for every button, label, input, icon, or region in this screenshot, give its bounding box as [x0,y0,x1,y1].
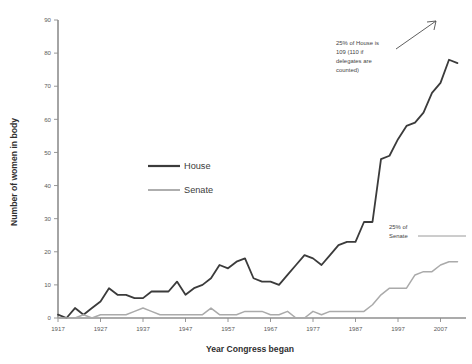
annotation-house-line-2: 109 (110 if [336,49,364,55]
x-tick-label: 1947 [179,325,193,332]
chart-legend: House Senate [148,161,213,195]
y-tick-label: 70 [44,82,51,89]
y-tick-label: 30 [44,215,51,222]
y-tick-label: 20 [44,248,51,255]
x-tick-label: 1997 [391,325,405,332]
x-tick-label: 2007 [434,325,448,332]
chart-container: Number of women in body Year Congress be… [0,0,472,364]
x-axis-title: Year Congress began [206,344,294,354]
y-tick-label: 10 [44,281,51,288]
y-axis-ticks: 0102030405060708090 [44,16,58,321]
annotation-house-line-4: counted) [336,67,359,73]
line-chart: Number of women in body Year Congress be… [0,0,472,364]
series-line-house [58,60,458,318]
series-line-senate [58,262,458,318]
annotation-house-25-percent: 25% of House is 109 (110 if delegates ar… [336,21,436,73]
y-tick-label: 0 [48,314,52,321]
x-tick-label: 1977 [306,325,320,332]
annotation-senate-line-1: 25% of [389,224,408,230]
y-tick-label: 60 [44,116,51,123]
y-tick-label: 50 [44,149,51,156]
annotation-arrow-icon [396,21,436,49]
x-axis-ticks: 1917192719371947195719671977198719972007 [51,318,448,332]
x-tick-label: 1927 [94,325,108,332]
y-tick-label: 40 [44,182,51,189]
y-axis-title: Number of women in body [9,118,19,226]
series-layer [58,60,458,318]
x-tick-label: 1967 [264,325,278,332]
x-tick-label: 1937 [136,325,150,332]
y-tick-label: 90 [44,16,51,23]
legend-label-senate: Senate [184,185,213,195]
annotation-senate-25-percent: 25% of Senate [389,224,466,239]
annotation-house-line-1: 25% of House is [336,40,379,46]
y-tick-label: 80 [44,49,51,56]
x-tick-label: 1917 [51,325,65,332]
annotation-house-line-3: delegates are [336,58,372,64]
x-tick-label: 1957 [221,325,235,332]
legend-label-house: House [184,161,211,171]
annotation-senate-line-2: Senate [389,233,408,239]
x-tick-label: 1987 [349,325,363,332]
